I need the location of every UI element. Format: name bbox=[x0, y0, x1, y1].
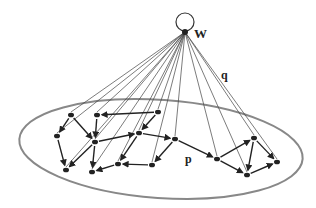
directed-edge bbox=[155, 142, 172, 161]
graph-node bbox=[149, 163, 155, 168]
directed-edge bbox=[220, 140, 249, 157]
directed-edge bbox=[142, 115, 155, 129]
graph-node bbox=[136, 131, 142, 136]
directed-edge bbox=[221, 161, 243, 173]
directed-edge bbox=[123, 164, 148, 165]
graph-node bbox=[155, 110, 161, 115]
graph-node bbox=[94, 113, 100, 118]
directed-edge bbox=[179, 141, 213, 157]
graph-node bbox=[89, 170, 95, 175]
graph-node bbox=[54, 134, 60, 139]
hub-edge-label: q bbox=[221, 68, 228, 82]
plane-edge-label: p bbox=[185, 152, 192, 166]
graph-node bbox=[251, 136, 257, 141]
plane-ellipse bbox=[16, 90, 306, 208]
network-diagram: W q p bbox=[0, 0, 316, 208]
directed-edge bbox=[70, 145, 93, 167]
hub-spoke bbox=[57, 32, 185, 133]
directed-edge bbox=[58, 140, 65, 165]
self-loop-icon bbox=[176, 13, 194, 31]
directed-edge bbox=[251, 164, 273, 173]
directed-edge bbox=[92, 146, 94, 167]
directed-edge bbox=[74, 118, 92, 138]
plane-edges bbox=[58, 112, 274, 173]
hub-spoke bbox=[185, 32, 277, 159]
hub-spoke bbox=[175, 32, 185, 136]
hub-label: W bbox=[194, 26, 207, 41]
directed-edge bbox=[95, 119, 96, 137]
graph-nodes bbox=[54, 110, 280, 178]
graph-node bbox=[172, 137, 178, 142]
directed-edge bbox=[248, 142, 253, 170]
graph-node bbox=[274, 160, 280, 165]
directed-edge bbox=[97, 165, 114, 170]
graph-node bbox=[115, 162, 121, 167]
directed-edge bbox=[257, 141, 274, 159]
hub-spoke bbox=[185, 32, 254, 135]
graph-node bbox=[244, 173, 250, 178]
graph-node bbox=[68, 113, 74, 118]
hub-spoke bbox=[139, 32, 185, 130]
hub-node bbox=[182, 29, 188, 35]
graph-node bbox=[92, 140, 98, 145]
graph-node bbox=[214, 157, 220, 162]
directed-edge bbox=[143, 134, 170, 139]
graph-node bbox=[63, 168, 69, 173]
